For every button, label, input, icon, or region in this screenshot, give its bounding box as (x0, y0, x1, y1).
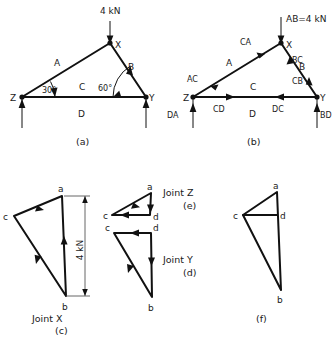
panel-d-caption: (d) (183, 267, 196, 278)
panel-c-dim-arrow-bottom (82, 289, 88, 296)
panel-f-caption: (f) (256, 313, 267, 324)
panel-a-space-d: D (78, 109, 85, 119)
panel-e-force-polygon (112, 193, 151, 215)
panel-b-space-c: C (250, 82, 256, 92)
panel-a-angle-30-label: 30° (42, 86, 56, 95)
panel-b-space-d: D (249, 109, 256, 119)
panel-d-name: Joint Y (162, 254, 193, 265)
panel-c-force-polygon (14, 196, 66, 296)
panel-d-arrow-dc (130, 230, 139, 237)
panel-b-load-label: AB=4 kN (286, 14, 326, 24)
panel-e-vertex-a: a (147, 182, 153, 192)
panel-e-caption: (e) (183, 200, 196, 211)
panel-b-reaction-z (190, 99, 197, 128)
panel-f-vertex-d: d (280, 211, 286, 221)
panel-b-space-a: A (226, 58, 233, 68)
panel-b-member-zx (193, 43, 281, 97)
panel-b-load-arrow (278, 17, 285, 44)
panel-e-name: Joint Z (162, 187, 194, 198)
panel-b-force-da: DA (167, 111, 179, 120)
panel-a-angle-60-arrowhead (113, 91, 121, 97)
panel-d-arrow-bd (148, 258, 155, 267)
arrow-dc (275, 94, 284, 101)
panel-f-vertex-c: c (233, 211, 238, 221)
panel-a-joint-y-label: Y (148, 93, 155, 103)
panel-c-arrow-ab (61, 236, 68, 245)
panel-a-space-c: C (79, 82, 85, 92)
panel-e-vertex-d: d (153, 212, 159, 222)
panel-d: c d b Joint Y (d) (105, 223, 196, 313)
panel-c-vertex-c: c (3, 212, 8, 222)
panel-a-reaction-y (143, 99, 150, 128)
panel-c-dim-label: 4 kN (75, 240, 85, 261)
truss-figure-svg: 4 kN X Z Y A B C D 30° 60° (0, 0, 334, 337)
panel-a-reaction-z (19, 99, 26, 128)
panel-c: a c b 4 kN Joint X (c) (3, 184, 90, 336)
panel-b-joint-z-node (190, 94, 195, 99)
panel-c-name: Joint X (31, 313, 63, 324)
panel-b-caption: (b) (247, 136, 260, 147)
panel-a-space-a: A (54, 58, 61, 68)
panel-b-force-cb: CB (292, 77, 303, 86)
panel-b-joint-y-label: Y (319, 93, 326, 103)
panel-a: 4 kN X Z Y A B C D 30° 60° (10, 6, 155, 147)
panel-b-force-ac: AC (187, 75, 198, 84)
arrow-cd (226, 94, 235, 101)
panel-e: a c d Joint Z (e) (103, 182, 196, 222)
panel-a-joint-x-label: X (115, 40, 121, 50)
panel-a-load-label: 4 kN (100, 6, 121, 16)
panel-c-vertex-a: a (58, 184, 64, 194)
panel-a-joint-z-label: Z (10, 93, 16, 103)
joint-y-node (143, 94, 148, 99)
panel-a-caption: (a) (76, 136, 89, 147)
member-zx (22, 43, 110, 97)
panel-d-vertex-b: b (148, 303, 154, 313)
panel-f-vertex-b: b (277, 295, 283, 305)
panel-b-force-dc: DC (272, 105, 284, 114)
panel-b-joint-x-node (278, 40, 283, 45)
panel-e-arrow-cd (120, 212, 129, 219)
panel-b-force-bc: BC (292, 56, 303, 65)
joint-z-node (19, 94, 24, 99)
panel-d-force-polygon (114, 233, 152, 297)
panel-d-vertex-d: d (153, 223, 159, 233)
panel-f: a c d b (f) (233, 181, 286, 324)
panel-f-vertex-a: a (273, 181, 279, 191)
panel-b-force-ca: CA (240, 38, 252, 47)
joint-x-node (107, 40, 112, 45)
panel-d-vertex-c: c (105, 223, 110, 233)
panel-b-force-cd: CD (213, 105, 225, 114)
panel-b-joint-x-label: X (286, 40, 292, 50)
panel-c-caption: (c) (55, 325, 68, 336)
panel-b-force-bd: BD (320, 111, 332, 120)
panel-a-angle-60-label: 60° (98, 84, 112, 93)
panel-b: AB=4 kN X Z Y A B C D CA AC BC CB CD DC … (167, 14, 332, 147)
figure-canvas: 4 kN X Z Y A B C D 30° 60° (0, 0, 334, 337)
panel-c-dim-arrow-top (82, 196, 88, 203)
panel-f-outer-polygon (243, 192, 281, 290)
panel-b-joint-y-node (314, 94, 319, 99)
panel-e-vertex-c: c (103, 211, 108, 221)
panel-b-joint-z-label: Z (183, 93, 189, 103)
panel-c-vertex-b: b (62, 302, 68, 312)
